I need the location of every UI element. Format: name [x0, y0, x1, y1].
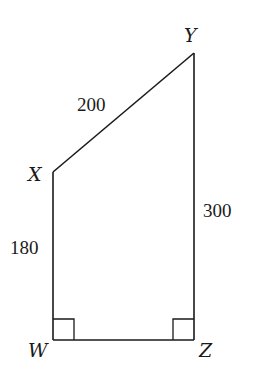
edge-xy [53, 53, 194, 172]
vertex-label-y: Y [184, 24, 199, 46]
quadrilateral-diagram: W X Y Z 180 200 300 [0, 0, 253, 385]
right-angle-marker-w [53, 319, 74, 340]
vertex-label-w: W [28, 339, 49, 361]
edge-length-xy: 200 [77, 94, 106, 115]
edge-length-wx: 180 [10, 237, 39, 258]
edge-length-yz: 300 [203, 200, 232, 221]
vertex-label-z: Z [198, 339, 213, 361]
right-angle-marker-z [173, 319, 194, 340]
vertex-label-x: X [26, 163, 43, 185]
